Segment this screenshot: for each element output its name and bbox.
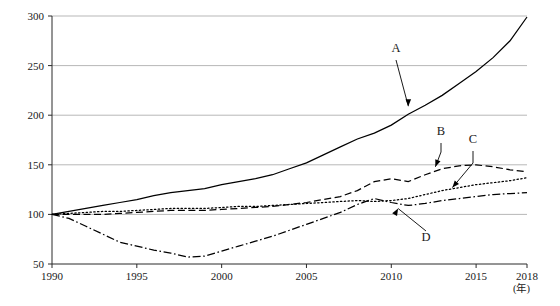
y-tick-label: 50 bbox=[33, 258, 45, 270]
y-tick-label: 300 bbox=[28, 10, 45, 22]
y-tick-label: 250 bbox=[28, 60, 45, 72]
y-axis-tick-labels: 50100150200250300 bbox=[28, 10, 45, 270]
x-tick-label: 2000 bbox=[211, 270, 234, 282]
axes bbox=[48, 16, 527, 268]
x-tick-label: 1990 bbox=[41, 270, 64, 282]
series-label-A: A bbox=[391, 41, 400, 55]
series-label-C: C bbox=[469, 132, 477, 146]
series-line-B bbox=[52, 165, 527, 215]
x-tick-label: 2015 bbox=[465, 270, 488, 282]
series-annotations: ABCD bbox=[391, 41, 477, 244]
series-label-B: B bbox=[437, 124, 445, 138]
annotation-arrowhead-A bbox=[406, 99, 412, 106]
chart-canvas: 50100150200250300 1990199520002005201020… bbox=[0, 0, 560, 306]
data-series bbox=[52, 17, 527, 257]
annotation-leader-D bbox=[398, 209, 426, 232]
annotation-arrowhead-B bbox=[433, 159, 441, 168]
x-tick-label: 2018 bbox=[516, 270, 539, 282]
x-axis-tick-labels: 1990199520002005201020152018 bbox=[41, 270, 539, 282]
series-label-D: D bbox=[421, 230, 430, 244]
y-tick-label: 150 bbox=[28, 159, 45, 171]
y-tick-label: 200 bbox=[28, 109, 45, 121]
line-chart: 50100150200250300 1990199520002005201020… bbox=[0, 0, 560, 306]
x-tick-label: 2005 bbox=[295, 270, 318, 282]
x-tick-label: 1995 bbox=[126, 270, 149, 282]
y-tick-label: 100 bbox=[28, 208, 45, 220]
x-axis-unit-label: (年) bbox=[513, 282, 530, 295]
x-tick-label: 2010 bbox=[380, 270, 403, 282]
